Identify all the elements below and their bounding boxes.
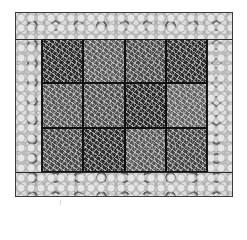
bottom-separator-line — [15, 172, 233, 173]
stray-mark — [60, 200, 61, 205]
grid-tile-r2-c4 — [166, 83, 207, 127]
grid-tile-r2-c1 — [42, 83, 83, 127]
fiber-tile-grid — [41, 39, 208, 172]
grid-tile-r3-c2 — [83, 128, 124, 172]
grid-tile-r2-c3 — [125, 83, 166, 127]
grid-tile-r1-c3 — [125, 39, 166, 83]
grid-tile-r1-c1 — [42, 39, 83, 83]
grid-tile-r3-c4 — [166, 128, 207, 172]
grid-tile-r2-c2 — [83, 83, 124, 127]
grid-tile-r3-c3 — [125, 128, 166, 172]
grid-tile-r1-c2 — [83, 39, 124, 83]
grid-tile-r3-c1 — [42, 128, 83, 172]
grid-tile-r1-c4 — [166, 39, 207, 83]
